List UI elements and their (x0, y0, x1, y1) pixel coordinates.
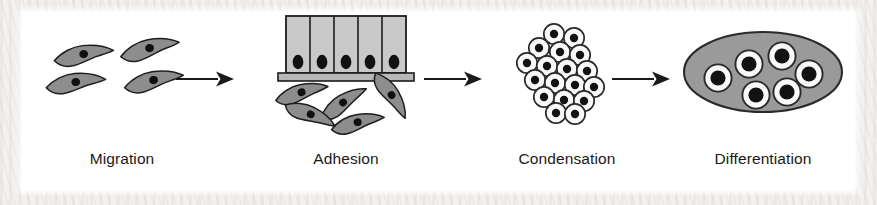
stage-adhesion: Adhesion (240, 12, 452, 190)
stage-differentiation: Differentiation (670, 12, 856, 190)
arrow-condensation-to-differentiation (610, 66, 672, 92)
stage-label-condensation: Condensation (478, 150, 656, 168)
condensed-cell (546, 103, 566, 123)
migration-cell-group (45, 33, 185, 96)
condensation-cell-cluster (517, 24, 604, 124)
arrow-adhesion-to-condensation (422, 66, 484, 92)
stage-condensation: Condensation (478, 12, 656, 190)
migration-cell (118, 33, 181, 65)
epithelial-nucleus (365, 55, 376, 69)
chondrogenesis-figure: Migration (0, 0, 877, 205)
stage-migration: Migration (32, 12, 212, 190)
differentiation-illustration (670, 12, 856, 140)
chondrocyte (704, 64, 731, 91)
epithelial-nucleus (317, 55, 328, 69)
basement-membrane (278, 73, 414, 81)
epithelial-nucleus (389, 55, 400, 69)
condensed-cell (565, 104, 585, 124)
migration-cell (53, 41, 115, 69)
arrow-migration-to-adhesion (174, 66, 236, 92)
chondrocyte (795, 60, 822, 87)
migration-cell (45, 70, 107, 96)
chondrocyte (735, 50, 762, 77)
chondrocyte (768, 42, 795, 69)
chondrocyte (742, 81, 769, 108)
stage-label-migration: Migration (32, 150, 212, 168)
stage-label-differentiation: Differentiation (670, 150, 856, 168)
epithelial-nucleus (341, 55, 352, 69)
figure-panel: Migration (22, 12, 855, 190)
epithelial-nucleus (293, 55, 304, 69)
chondrocyte (773, 78, 800, 105)
adhesion-illustration (240, 12, 452, 140)
stage-label-adhesion: Adhesion (240, 150, 452, 168)
epithelial-sheet (286, 16, 406, 73)
